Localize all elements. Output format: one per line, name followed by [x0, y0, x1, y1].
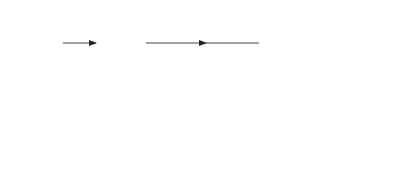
diagram-canvas: [0, 0, 412, 180]
